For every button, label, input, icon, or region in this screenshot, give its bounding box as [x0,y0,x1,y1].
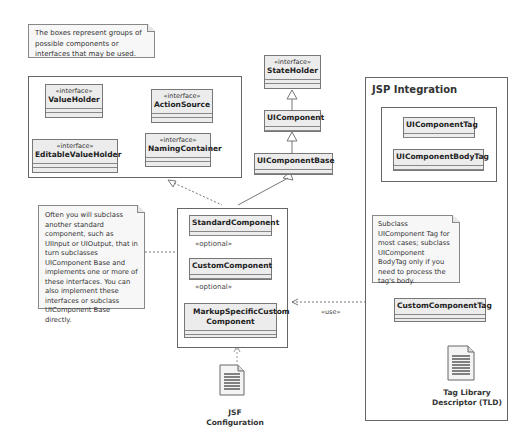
tld-document-icon [447,345,475,381]
class-name: CustomComponent [192,261,269,271]
stereotype-label: «interface» [35,142,115,150]
class-actionsource[interactable]: «interface» ActionSource [151,89,213,123]
class-valueholder[interactable]: «interface» ValueHolder [45,84,103,118]
class-name: ActionSource [154,100,210,110]
note-text: Often you will subclass another standard… [45,211,138,324]
class-name: ValueHolder [48,95,100,105]
class-name: StandardComponent [192,218,269,228]
class-uicomponentbase[interactable]: UIComponentBase [254,153,333,175]
class-name: StateHolder [267,66,318,76]
jsp-integration-title: JSP Integration [372,84,457,95]
stereotype-label: «interface» [148,136,208,144]
class-uicomponenttag[interactable]: UIComponentTag [403,117,475,138]
note-subclass-standard-component: Often you will subclass another standard… [38,205,145,309]
jsf-config-document-icon [219,364,245,396]
class-name: MarkupSpecificCustom Component [193,307,268,327]
class-name: EditableValueHolder [35,150,115,160]
optional-label: «optional» [195,240,232,248]
class-namingcontainer[interactable]: «interface» NamingContainer [145,133,211,167]
jsf-config-label: JSF Configuration [205,408,265,428]
class-name: UIComponent [267,113,318,123]
note-subclass-uicomponenttag: Subclass UIComponent Tag for most cases;… [372,215,460,283]
class-editablevalueholder[interactable]: «interface» EditableValueHolder [32,139,118,173]
stereotype-label: «interface» [154,92,210,100]
class-customcomponent[interactable]: CustomComponent [189,258,272,280]
class-name: UIComponentTag [406,120,472,130]
class-name: UIComponentBase [257,156,330,166]
class-name: NamingContainer [148,144,208,154]
use-label: «use» [321,308,340,316]
class-name: UIComponentBodyTag [396,152,481,162]
stereotype-label: «interface» [48,87,100,95]
note-text: The boxes represent groups of possible c… [35,29,142,58]
tld-label: Tag Library Descriptor (TLD) [425,388,509,408]
stereotype-label: «interface» [267,58,318,66]
optional-label: «optional» [195,283,232,291]
class-uicomponentbodytag[interactable]: UIComponentBodyTag [393,149,484,171]
class-name: CustomComponentTag [397,301,483,311]
class-standardcomponent[interactable]: StandardComponent [189,215,272,236]
class-customcomponenttag[interactable]: CustomComponentTag [394,298,486,322]
class-uicomponent[interactable]: UIComponent [264,110,321,132]
note-text: Subclass UIComponent Tag for most cases;… [378,220,450,285]
class-markupspecificcustomcomponent[interactable]: MarkupSpecificCustom Component [184,303,277,338]
note-boxes-represent-groups: The boxes represent groups of possible c… [28,24,155,58]
class-stateholder[interactable]: «interface» StateHolder [264,55,321,89]
